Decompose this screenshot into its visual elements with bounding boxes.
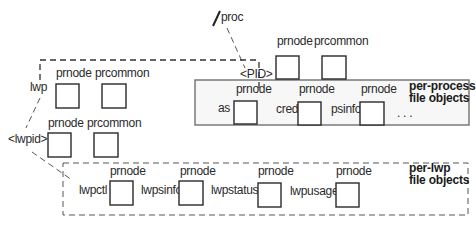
lwpid-label: <lwpid>	[8, 132, 48, 146]
per-process-ellipsis: . . .	[397, 106, 412, 120]
psinfo-type-label: prnode	[361, 82, 397, 96]
lwpctl-type-label: prnode	[110, 164, 146, 178]
proc-to-pid-connector	[227, 28, 245, 68]
procfs-diagram: proc <PID> prnode prcommon per-process f…	[0, 0, 476, 230]
lwpsinfo-label: lwpsinfo	[141, 183, 183, 197]
cred-box	[298, 102, 321, 125]
lwpid-prcommon-label: prcommon	[87, 116, 141, 130]
lwpstatus-type-label: prnode	[258, 164, 294, 178]
lwpctl-label: lwpctl	[79, 183, 107, 197]
as-box	[234, 101, 257, 124]
pid-prcommon-box	[322, 56, 346, 79]
lwpusage-type-label: prnode	[336, 164, 372, 178]
lwp-prnode-label: prnode	[56, 66, 92, 80]
lwpstatus-box	[258, 183, 281, 207]
as-type-label: prnode	[236, 82, 272, 96]
lwpstatus-label: lwpstatus	[211, 183, 259, 197]
lwp-prcommon-label: prcommon	[95, 66, 149, 80]
lwp-label: lwp	[30, 80, 48, 94]
psinfo-label: psinfo	[331, 102, 362, 116]
per-process-title-2: file objects	[409, 91, 470, 105]
lwp-to-lwpid-connector	[26, 98, 40, 128]
lwpusage-label: lwpusage	[290, 184, 339, 198]
proc-label: proc	[221, 10, 243, 24]
per-lwp-title-2: file objects	[409, 173, 470, 187]
pid-prcommon-label: prcommon	[314, 34, 368, 48]
pid-prnode-box	[276, 56, 299, 79]
as-label: as	[218, 101, 230, 115]
lwpusage-box	[336, 183, 359, 207]
cred-label: cred	[276, 102, 298, 116]
cred-type-label: prnode	[299, 82, 335, 96]
psinfo-box	[360, 102, 384, 125]
lwpctl-box	[110, 181, 133, 205]
lwpsinfo-box	[179, 181, 203, 205]
lwp-prnode-box	[56, 84, 79, 108]
proc-slash	[213, 11, 220, 26]
lwp-prcommon-box	[102, 84, 126, 108]
lwpid-prnode-label: prnode	[48, 116, 84, 130]
lwpsinfo-type-label: prnode	[180, 164, 216, 178]
pid-prnode-label: prnode	[277, 34, 313, 48]
lwpid-prnode-box	[48, 133, 71, 157]
pid-label: <PID>	[240, 67, 273, 81]
lwpid-prcommon-box	[94, 133, 118, 157]
